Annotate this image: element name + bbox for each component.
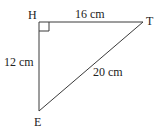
side-ET [39,22,143,111]
vertex-label-T: T [146,14,154,28]
vertex-label-E: E [34,115,41,129]
vertex-label-H: H [28,8,37,22]
side-label-HT: 16 cm [75,7,105,21]
side-label-ET: 20 cm [93,65,123,79]
triangle-diagram: H T E 16 cm 12 cm 20 cm [0,0,163,135]
right-angle-marker [39,22,49,31]
side-label-HE: 12 cm [4,55,34,69]
